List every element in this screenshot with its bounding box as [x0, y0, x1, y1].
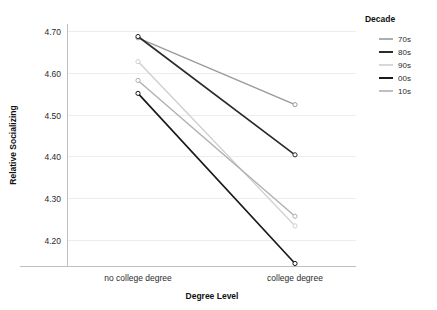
- data-point-10s-no-college-degree: [136, 78, 140, 82]
- series-00s: [136, 91, 297, 265]
- x-axis-title: Degree Level: [186, 291, 239, 301]
- legend-label-10s: 10s: [398, 87, 411, 96]
- legend-item-80s[interactable]: 80s: [379, 48, 411, 57]
- legend-label-70s: 70s: [398, 35, 411, 44]
- series-90s: [136, 59, 297, 227]
- chart-container: 4.70 4.60 4.50 4.40 4.30 4.20 no college…: [0, 0, 437, 310]
- legend-item-00s[interactable]: 00s: [379, 74, 411, 83]
- legend-item-10s[interactable]: 10s: [379, 87, 411, 96]
- legend-item-90s[interactable]: 90s: [379, 61, 411, 70]
- legend: Decade 70s 80s 90s 00s 10s: [365, 14, 411, 96]
- x-axis-tick-labels: no college degree college degree: [104, 273, 323, 283]
- axis-lines: [20, 24, 356, 267]
- legend-label-00s: 00s: [398, 74, 411, 83]
- data-point-90s-college-degree: [293, 224, 297, 228]
- series-line-10s: [138, 80, 295, 216]
- y-tick-label: 4.40: [44, 152, 61, 162]
- y-axis-tick-labels: 4.70 4.60 4.50 4.40 4.30 4.20: [44, 27, 61, 246]
- y-tick-label: 4.50: [44, 111, 61, 121]
- line-chart-plot: 4.70 4.60 4.50 4.40 4.30 4.20 no college…: [0, 0, 437, 310]
- series-line-00s: [138, 93, 295, 263]
- y-axis-title: Relative Socializing: [8, 105, 18, 184]
- data-point-80s-college-degree: [293, 153, 297, 157]
- series-line-80s: [138, 37, 295, 155]
- gridlines: [67, 32, 356, 241]
- data-point-70s-college-degree: [293, 103, 297, 107]
- legend-label-90s: 90s: [398, 61, 411, 70]
- data-point-00s-no-college-degree: [136, 91, 140, 95]
- series-line-90s: [138, 62, 295, 226]
- data-point-00s-college-degree: [293, 261, 297, 265]
- data-point-80s-no-college-degree: [136, 34, 140, 38]
- legend-title: Decade: [365, 14, 396, 24]
- y-tick-label: 4.70: [44, 27, 61, 37]
- y-tick-label: 4.20: [44, 236, 61, 246]
- x-tick-label-college-degree: college degree: [267, 273, 323, 283]
- series-10s: [136, 78, 297, 218]
- data-series-layer: [136, 34, 297, 265]
- legend-label-80s: 80s: [398, 48, 411, 57]
- y-tick-label: 4.60: [44, 69, 61, 79]
- legend-item-70s[interactable]: 70s: [379, 35, 411, 44]
- data-point-10s-college-degree: [293, 214, 297, 218]
- y-tick-label: 4.30: [44, 194, 61, 204]
- data-point-90s-no-college-degree: [136, 59, 140, 63]
- x-tick-label-no-college-degree: no college degree: [104, 273, 172, 283]
